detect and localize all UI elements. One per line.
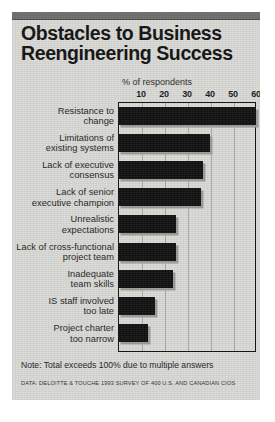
bar-row: Lack of cross-functionalproject team bbox=[12, 238, 260, 265]
chart-title-line-1: Obstacles to Business bbox=[21, 23, 253, 43]
bar-row: Inadequateteam skills bbox=[12, 265, 260, 292]
category-label-line: Limitations of bbox=[14, 132, 114, 142]
category-label-line: Lack of cross-functional bbox=[14, 241, 114, 251]
category-label: Limitations ofexisting systems bbox=[14, 132, 114, 153]
category-label: Inadequateteam skills bbox=[14, 268, 114, 289]
x-axis-label: % of respondents bbox=[12, 77, 260, 87]
chart-figure: Obstacles to Business Reengineering Succ… bbox=[12, 12, 260, 400]
bar-rows: Resistance tochangeLimitations ofexistin… bbox=[12, 102, 260, 352]
bar-row: Limitations ofexisting systems bbox=[12, 129, 260, 156]
category-label-line: Resistance to bbox=[14, 105, 114, 115]
bar bbox=[118, 188, 201, 206]
bar bbox=[118, 243, 176, 261]
bar-row: Resistance tochange bbox=[12, 102, 260, 129]
category-label-line: expectations bbox=[14, 224, 114, 234]
x-tick-label-60: 60 bbox=[251, 89, 260, 99]
category-label-line: Inadequate bbox=[14, 268, 114, 278]
category-label-line: existing systems bbox=[14, 143, 114, 153]
bar bbox=[118, 161, 203, 179]
category-label-line: project team bbox=[14, 252, 114, 262]
x-axis-tick-labels: 102030405060 bbox=[12, 89, 260, 100]
bar-row: Lack of seniorexecutive champion bbox=[12, 184, 260, 211]
x-tick-label-30: 30 bbox=[182, 89, 192, 99]
x-tick-label-40: 40 bbox=[205, 89, 215, 99]
category-label-line: IS staff involved bbox=[14, 296, 114, 306]
chart-title: Obstacles to Business Reengineering Succ… bbox=[21, 23, 253, 63]
chart-source: DATA: DELOITTE & TOUCHE 1993 SURVEY OF 4… bbox=[21, 380, 253, 386]
header-rule bbox=[12, 12, 260, 20]
x-tick-label-50: 50 bbox=[228, 89, 238, 99]
category-label: Lack of cross-functionalproject team bbox=[14, 241, 114, 262]
bar bbox=[118, 270, 173, 288]
category-label-line: too narrow bbox=[14, 333, 114, 343]
chart-note: Note: Total exceeds 100% due to multiple… bbox=[21, 360, 253, 370]
category-label: Lack of seniorexecutive champion bbox=[14, 187, 114, 208]
category-label: Lack of executiveconsensus bbox=[14, 160, 114, 181]
bar-row: IS staff involvedtoo late bbox=[12, 292, 260, 319]
category-label-line: executive champion bbox=[14, 197, 114, 207]
x-tick-label-20: 20 bbox=[159, 89, 169, 99]
category-label-line: Lack of senior bbox=[14, 187, 114, 197]
chart-title-line-2: Reengineering Success bbox=[21, 43, 253, 63]
bar-row: Unrealisticexpectations bbox=[12, 211, 260, 238]
bar-row: Lack of executiveconsensus bbox=[12, 156, 260, 183]
bar bbox=[118, 134, 210, 152]
category-label-line: Unrealistic bbox=[14, 214, 114, 224]
category-label-line: Lack of executive bbox=[14, 160, 114, 170]
category-label: Resistance tochange bbox=[14, 105, 114, 126]
category-label: Project chartertoo narrow bbox=[14, 323, 114, 344]
bar bbox=[118, 324, 148, 342]
x-tick-label-10: 10 bbox=[136, 89, 146, 99]
category-label-line: too late bbox=[14, 306, 114, 316]
category-label-line: change bbox=[14, 116, 114, 126]
category-label-line: Project charter bbox=[14, 323, 114, 333]
category-label-line: team skills bbox=[14, 279, 114, 289]
category-label: Unrealisticexpectations bbox=[14, 214, 114, 235]
bar-row: Project chartertoo narrow bbox=[12, 320, 260, 347]
bar bbox=[118, 297, 155, 315]
bar bbox=[118, 215, 176, 233]
category-label: IS staff involvedtoo late bbox=[14, 296, 114, 317]
category-label-line: consensus bbox=[14, 170, 114, 180]
bar bbox=[118, 107, 256, 125]
